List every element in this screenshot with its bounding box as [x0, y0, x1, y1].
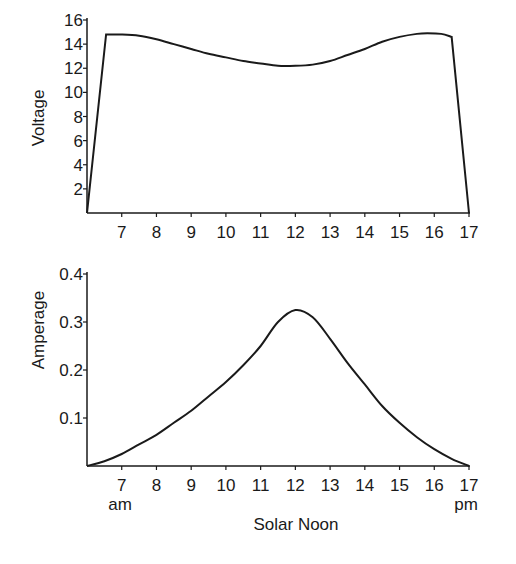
y-tick-label: 0.4: [59, 265, 83, 284]
y-tick-label: 2: [74, 180, 83, 199]
y-tick-label: 10: [64, 83, 83, 102]
y-tick-label: 6: [74, 132, 83, 151]
x-tick-label: 13: [321, 476, 340, 495]
voltage-y-ticks: 246810121416: [64, 11, 87, 199]
x-tick-label: 7: [117, 476, 126, 495]
y-tick-label: 8: [74, 108, 83, 127]
voltage-chart: 246810121416 7891011121314151617 Voltage: [29, 11, 478, 242]
x-tick-label: 15: [390, 476, 409, 495]
x-tick-label: 11: [252, 223, 270, 242]
y-tick-label: 14: [64, 35, 83, 54]
x-tick-label: 9: [186, 223, 195, 242]
x-tick-label: 10: [216, 476, 235, 495]
amperage-y-ticks: 0.10.20.30.4: [59, 265, 87, 428]
y-tick-label: 0.3: [59, 313, 83, 332]
amperage-chart: 0.10.20.30.4 7891011121314151617 Amperag…: [29, 265, 478, 534]
amperage-x-ticks: 7891011121314151617: [117, 466, 478, 495]
x-tick-label: 17: [460, 476, 479, 495]
x-tick-label: 12: [286, 223, 305, 242]
y-tick-label: 12: [64, 59, 83, 78]
voltage-line: [87, 33, 469, 213]
x-tick-label: 13: [321, 223, 340, 242]
x-tick-label: 12: [286, 476, 305, 495]
voltage-x-ticks: 7891011121314151617: [117, 213, 478, 242]
y-tick-label: 0.1: [59, 409, 83, 428]
x-tick-label: 9: [186, 476, 195, 495]
am-label: am: [108, 495, 132, 514]
pm-label: pm: [454, 495, 478, 514]
x-tick-label: 10: [216, 223, 235, 242]
x-tick-label: 7: [117, 223, 126, 242]
y-tick-label: 0.2: [59, 361, 83, 380]
x-tick-label: 8: [152, 223, 161, 242]
solar-noon-label: Solar Noon: [253, 515, 338, 534]
amperage-line: [87, 310, 469, 466]
x-tick-label: 15: [390, 223, 409, 242]
x-tick-label: 16: [425, 476, 444, 495]
x-tick-label: 11: [252, 476, 270, 495]
y-tick-label: 16: [64, 11, 83, 30]
x-tick-label: 16: [425, 223, 444, 242]
chart-canvas: 246810121416 7891011121314151617 Voltage…: [0, 0, 516, 564]
amperage-axis-title: Amperage: [29, 291, 48, 369]
x-tick-label: 17: [460, 223, 479, 242]
y-tick-label: 4: [74, 156, 83, 175]
x-tick-label: 14: [355, 476, 374, 495]
x-tick-label: 14: [355, 223, 374, 242]
x-tick-label: 8: [152, 476, 161, 495]
voltage-axis-title: Voltage: [29, 90, 48, 147]
